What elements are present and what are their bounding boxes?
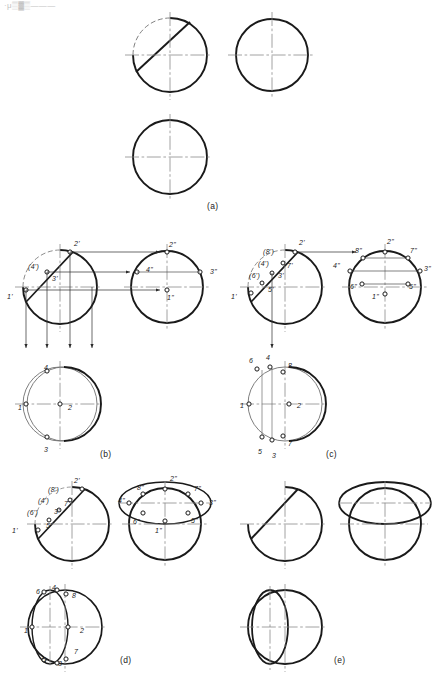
point-label-c_front-3: 7': [287, 262, 293, 269]
point-marker-7: [64, 657, 68, 661]
point-label-d_side-1: 8": [137, 484, 144, 491]
point-label-d_side-3: 4": [118, 497, 125, 504]
point-label-b_front-1: (4'): [28, 263, 39, 270]
point-label-d_side-4: 3": [209, 499, 216, 506]
panel-c-top-view: [240, 361, 327, 449]
plate-label-c: (c): [326, 449, 337, 459]
point-marker-2: [66, 625, 70, 629]
plate-label-a: (a): [207, 201, 218, 211]
point-label-c_front-6: 5': [268, 286, 274, 293]
panel-e-group: [240, 481, 432, 672]
point-label-c_front-7: 1': [231, 293, 237, 300]
point-marker-6pp: [360, 282, 364, 286]
point-label-d_front-1: (8'): [48, 486, 59, 493]
point-label-d_front-6: 5': [46, 522, 52, 529]
point-label-d_top-6: 3: [58, 660, 62, 667]
point-marker-1: [24, 402, 28, 406]
point-label-c_front-4: (6'): [249, 272, 260, 279]
point-marker-2: [287, 402, 291, 406]
point-marker-1: [30, 625, 34, 629]
point-marker-1p: [36, 528, 40, 532]
point-label-d_top-1: 4: [52, 584, 56, 591]
point-label-d_side-2: 7": [194, 485, 201, 492]
point-marker-5p: [260, 281, 264, 285]
sphere-outline-removed-arc: [248, 250, 285, 287]
point-label-c_front-0: 2': [299, 239, 305, 246]
plate-label-d: (d): [120, 655, 131, 665]
point-label-c_top-5: 5: [258, 448, 262, 455]
point-label-d_side-0: 2": [170, 475, 177, 482]
point-marker-3pp: [199, 501, 203, 505]
panel-d-front-view: [27, 481, 114, 569]
point-label-c_top-4: 2: [297, 402, 301, 409]
point-marker-8: [64, 592, 68, 596]
point-marker-2p: [293, 250, 297, 254]
sphere-outline-removed-arc: [133, 18, 170, 55]
cutting-plane-chord: [26, 252, 73, 302]
point-marker-1p: [249, 291, 253, 295]
point-label-d_front-5: 3': [54, 508, 60, 515]
point-marker-6: [42, 590, 46, 594]
point-label-b_top-1: 1: [18, 404, 22, 411]
panel-b-front-view: [15, 244, 102, 332]
point-label-b_top-3: 3: [44, 446, 48, 453]
technical-drawing-canvas: [0, 0, 444, 675]
point-label-c_side-0: 2": [387, 238, 394, 245]
panel-a-side-view: [228, 12, 314, 98]
point-label-d_front-2: (4'): [38, 497, 49, 504]
point-marker-2pp: [383, 250, 387, 254]
point-label-c_side-7: 1": [372, 293, 379, 300]
point-marker-2pp: [165, 250, 169, 254]
point-label-c_top-2: 8: [288, 362, 292, 369]
point-marker-2p: [80, 487, 84, 491]
point-marker-8: [281, 370, 285, 374]
point-marker-5: [260, 435, 264, 439]
point-label-c_top-0: 6: [249, 357, 253, 364]
point-marker-8pp: [141, 492, 145, 496]
point-label-c_side-6: 5": [409, 283, 416, 290]
point-label-b_side-0: 2": [169, 241, 176, 248]
point-label-d_front-7: 1': [12, 527, 18, 534]
point-label-c_side-3: 4": [333, 262, 340, 269]
panel-e-top-view: [240, 584, 327, 672]
plate-label-b: (b): [100, 449, 111, 459]
cutting-plane-chord: [251, 489, 298, 539]
point-label-b_front-0: 2': [74, 240, 80, 247]
cutting-plane-chord: [136, 22, 190, 72]
point-marker-3: [45, 435, 49, 439]
point-label-d_side-6: 5": [191, 517, 198, 524]
panel-b-top-view: [15, 361, 102, 449]
point-label-c_top-6: 3: [272, 452, 276, 459]
point-marker-7pp: [406, 256, 410, 260]
panel-a-top-view: [125, 114, 212, 200]
panel-e-side-view: [338, 481, 432, 567]
point-label-d_front-4: (6'): [27, 509, 38, 516]
point-label-d_top-0: 6: [36, 588, 40, 595]
point-label-c_top-3: 1: [240, 402, 244, 409]
point-marker-5pp: [186, 511, 190, 515]
point-label-c_side-1: 8": [355, 247, 362, 254]
drawing-sheet: ·μ▒▓▒———: [0, 0, 444, 675]
point-label-d_side-7: 1": [155, 527, 162, 534]
panel-e-front-view: [240, 481, 327, 569]
point-label-d_top-4: 2: [80, 627, 84, 634]
point-label-c_top-1: 4: [266, 354, 270, 361]
point-marker-1pp: [165, 288, 169, 292]
point-marker-2pp: [163, 487, 167, 491]
point-marker-7pp: [186, 492, 190, 496]
panel-b-group: [15, 244, 210, 449]
panel-a-group: [125, 12, 314, 200]
panel-b-side-view: [124, 244, 210, 330]
point-marker-2: [58, 402, 62, 406]
point-label-b_side-3: 1": [167, 294, 174, 301]
point-label-c_side-2: 7": [410, 247, 417, 254]
point-label-d_front-0: 2': [74, 477, 80, 484]
point-label-d_side-5: 6": [133, 518, 140, 525]
point-label-d_top-7: 7: [74, 648, 78, 655]
point-label-b_top-2: 2: [68, 404, 72, 411]
point-label-c_top-7: 7: [288, 440, 292, 447]
point-label-c_front-1: (8'): [263, 248, 274, 255]
point-marker-7: [281, 434, 285, 438]
point-label-c_front-2: (4'): [258, 260, 269, 267]
panel-d-group: [20, 481, 212, 672]
